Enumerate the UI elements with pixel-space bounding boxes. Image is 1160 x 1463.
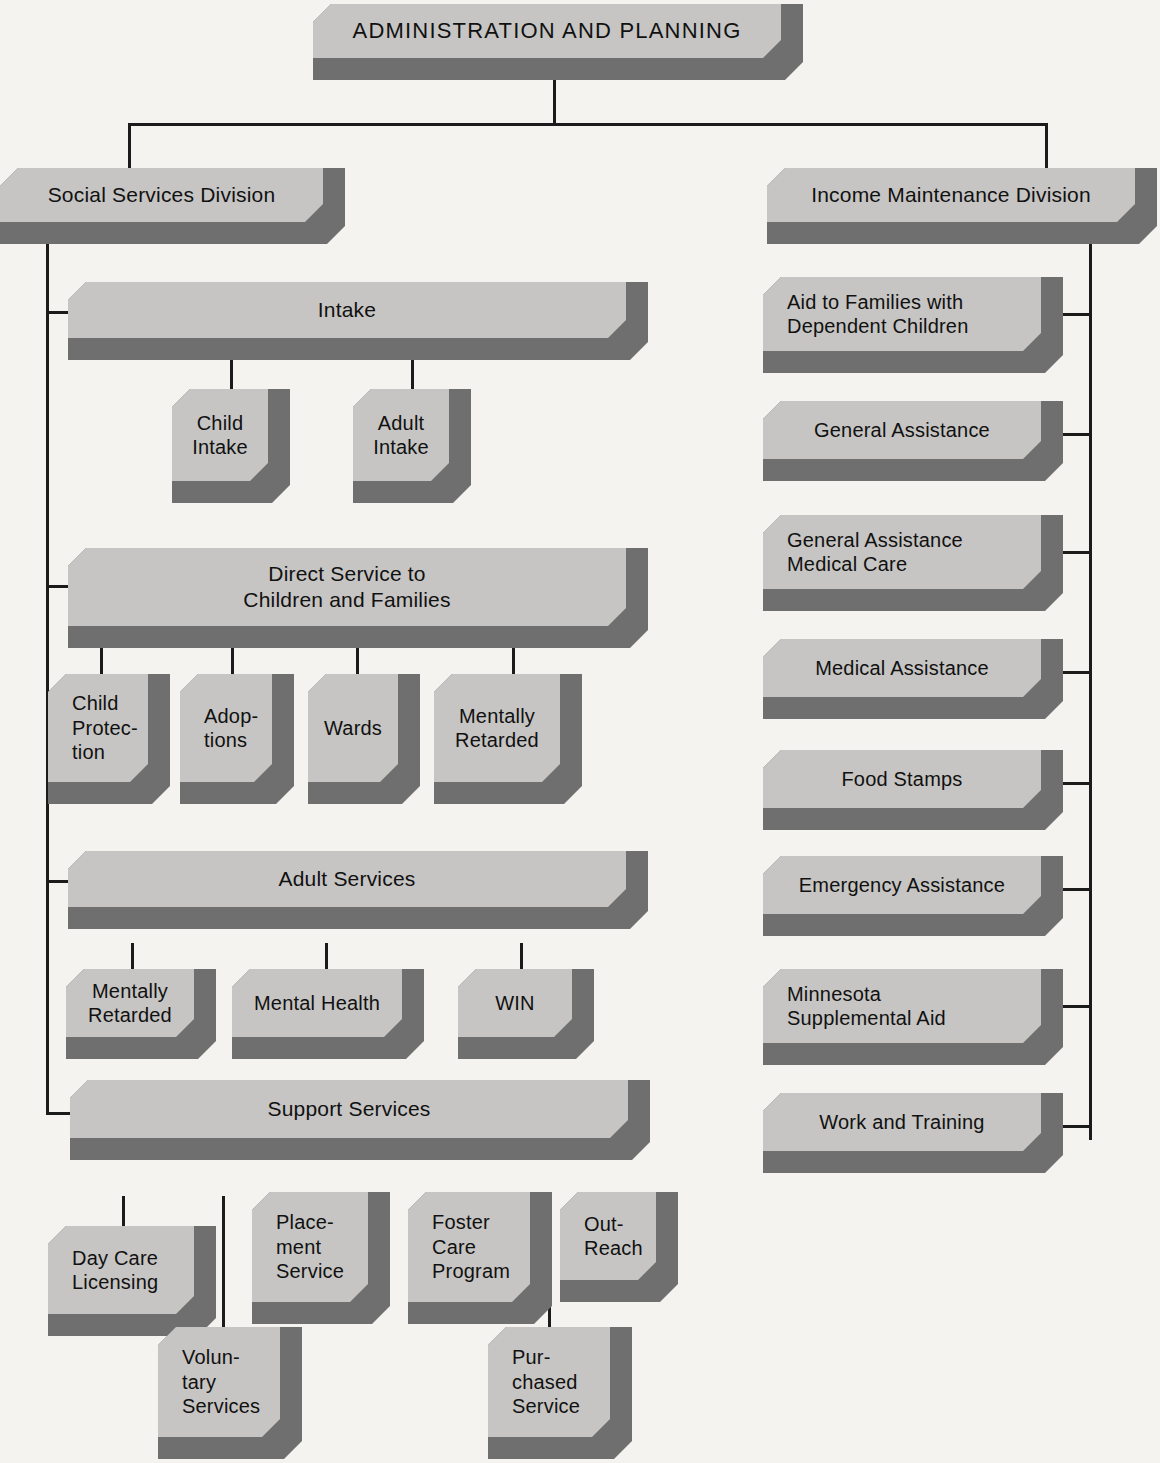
node-child-protection[interactable]: Child Protec- tion <box>48 674 170 804</box>
node-aid-to-families-with-dependent-children[interactable]: Aid to Families with Dependent Children <box>763 277 1063 373</box>
node-label: Place- ment Service <box>252 1210 350 1283</box>
box-face: Volun- tary Services <box>158 1327 280 1437</box>
connector-drop-mentally-retarded-children <box>512 648 515 676</box>
node-win[interactable]: WIN <box>458 969 594 1059</box>
node-label: WIN <box>489 991 540 1015</box>
node-label: Social Services Division <box>42 182 282 208</box>
connector-stub-emergency-assistance <box>1063 888 1092 891</box>
connector-drop-mentally-retarded-adults <box>131 943 134 971</box>
node-foster-care-program[interactable]: Foster Care Program <box>408 1192 552 1324</box>
connector-drop-child-protection <box>100 648 103 676</box>
node-social-services-division[interactable]: Social Services Division <box>0 168 345 244</box>
node-placement-service[interactable]: Place- ment Service <box>252 1192 390 1324</box>
box-face: Adult Intake <box>353 389 449 481</box>
connector-stub-work-and-training <box>1063 1125 1092 1128</box>
node-label: Child Protec- tion <box>48 691 144 764</box>
connector-stub-minnesota-supplemental-aid <box>1063 1005 1092 1008</box>
connector-to-social-services <box>128 123 131 173</box>
node-adult-services[interactable]: Adult Services <box>68 851 648 929</box>
node-label: Child Intake <box>186 411 254 460</box>
node-label: Aid to Families with Dependent Children <box>763 290 975 339</box>
node-adult-intake[interactable]: Adult Intake <box>353 389 471 503</box>
node-child-intake[interactable]: Child Intake <box>172 389 290 503</box>
node-mental-health[interactable]: Mental Health <box>232 969 424 1059</box>
connector-drop-adult-intake <box>411 360 414 392</box>
node-label: Food Stamps <box>835 767 968 791</box>
box-face: Adult Services <box>68 851 626 907</box>
node-income-maintenance-division[interactable]: Income Maintenance Division <box>767 168 1157 244</box>
org-chart-canvas: ADMINISTRATION AND PLANNING Social Servi… <box>0 0 1160 1463</box>
node-general-assistance-medical-care[interactable]: General Assistance Medical Care <box>763 515 1063 611</box>
node-direct-service-to-children-and-families[interactable]: Direct Service to Children and Families <box>68 548 648 648</box>
node-label: Income Maintenance Division <box>805 182 1097 208</box>
box-face: Emergency Assistance <box>763 856 1041 914</box>
node-label: General Assistance Medical Care <box>763 528 969 577</box>
box-face: Wards <box>308 674 398 782</box>
box-face: Adop- tions <box>180 674 272 782</box>
box-face: WIN <box>458 969 572 1037</box>
connector-drop-wards <box>356 648 359 676</box>
box-face: Social Services Division <box>0 168 323 222</box>
node-label: Mental Health <box>248 991 386 1015</box>
box-face: Aid to Families with Dependent Children <box>763 277 1041 351</box>
node-label: Medical Assistance <box>809 656 995 680</box>
box-face: Out- Reach <box>560 1192 656 1280</box>
node-intake[interactable]: Intake <box>68 282 648 360</box>
node-day-care-licensing[interactable]: Day Care Licensing <box>48 1226 216 1336</box>
connector-drop-adoptions <box>231 648 234 676</box>
box-face: General Assistance Medical Care <box>763 515 1041 589</box>
box-face: ADMINISTRATION AND PLANNING <box>313 4 781 58</box>
node-purchased-service[interactable]: Pur- chased Service <box>488 1327 632 1459</box>
connector-drop-voluntary-services <box>222 1196 225 1328</box>
connector-to-income-maintenance <box>1045 123 1048 173</box>
node-label: Out- Reach <box>560 1212 649 1261</box>
node-label: Mentally Retarded <box>449 704 545 753</box>
node-label: Emergency Assistance <box>793 873 1011 897</box>
node-administration-and-planning[interactable]: ADMINISTRATION AND PLANNING <box>313 4 803 80</box>
box-face: Income Maintenance Division <box>767 168 1135 222</box>
box-face: Mentally Retarded <box>66 969 194 1037</box>
node-voluntary-services[interactable]: Volun- tary Services <box>158 1327 302 1459</box>
connector-drop-win <box>520 943 523 971</box>
box-face: Mental Health <box>232 969 402 1037</box>
node-label: Direct Service to Children and Families <box>237 561 456 612</box>
box-face: Mentally Retarded <box>434 674 560 782</box>
connector-root-stem <box>553 76 556 124</box>
node-emergency-assistance[interactable]: Emergency Assistance <box>763 856 1063 936</box>
connector-drop-day-care-licensing <box>122 1196 125 1228</box>
connector-drop-mental-health <box>325 943 328 971</box>
node-label: Adult Services <box>272 866 421 892</box>
node-medical-assistance[interactable]: Medical Assistance <box>763 639 1063 719</box>
node-label: Mentally Retarded <box>82 979 178 1028</box>
node-label: General Assistance <box>808 418 996 442</box>
node-adoptions[interactable]: Adop- tions <box>180 674 294 804</box>
connector-stub-general-assistance <box>1063 433 1092 436</box>
box-face: Pur- chased Service <box>488 1327 610 1437</box>
node-general-assistance[interactable]: General Assistance <box>763 401 1063 481</box>
box-face: Foster Care Program <box>408 1192 530 1302</box>
node-label: Wards <box>318 716 388 740</box>
box-face: Child Intake <box>172 389 268 481</box>
box-face: Day Care Licensing <box>48 1226 194 1314</box>
node-label: Day Care Licensing <box>48 1246 164 1295</box>
node-label: Work and Training <box>813 1110 990 1134</box>
node-wards[interactable]: Wards <box>308 674 420 804</box>
node-out-reach[interactable]: Out- Reach <box>560 1192 678 1302</box>
node-label: Minnesota Supplemental Aid <box>763 982 952 1031</box>
connector-stub-food-stamps <box>1063 782 1092 785</box>
node-label: Volun- tary Services <box>158 1345 266 1418</box>
connector-stub-afdc <box>1063 313 1092 316</box>
node-mentally-retarded-adults[interactable]: Mentally Retarded <box>66 969 216 1059</box>
box-face: Direct Service to Children and Families <box>68 548 626 626</box>
connector-root-bus <box>128 123 1048 126</box>
node-label: ADMINISTRATION AND PLANNING <box>347 18 748 45</box>
node-support-services[interactable]: Support Services <box>70 1080 650 1160</box>
node-label: Adop- tions <box>180 704 264 753</box>
box-face: Place- ment Service <box>252 1192 368 1302</box>
node-mentally-retarded-children[interactable]: Mentally Retarded <box>434 674 582 804</box>
node-label: Support Services <box>261 1096 436 1122</box>
node-minnesota-supplemental-aid[interactable]: Minnesota Supplemental Aid <box>763 969 1063 1065</box>
node-work-and-training[interactable]: Work and Training <box>763 1093 1063 1173</box>
node-food-stamps[interactable]: Food Stamps <box>763 750 1063 830</box>
box-face: Child Protec- tion <box>48 674 148 782</box>
